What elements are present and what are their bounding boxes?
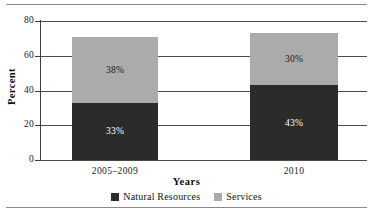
x-axis-title: Years — [0, 176, 373, 187]
y-axis-tick-label: 20 — [4, 120, 34, 130]
bar-2: 30%43% — [250, 33, 338, 160]
legend-label: Services — [226, 191, 261, 202]
bar-value-label: 30% — [285, 54, 303, 64]
y-axis-tick-label: 80 — [4, 16, 34, 26]
legend-swatch-icon — [111, 193, 119, 201]
chart-legend: Natural ResourcesServices — [0, 191, 373, 202]
legend-item: Natural Resources — [111, 191, 200, 202]
x-axis-category-label: 2010 — [230, 166, 358, 176]
bar-segment-services: 38% — [72, 37, 158, 103]
bar-segment-natural-resources: 43% — [250, 85, 338, 160]
bar-value-label: 33% — [106, 126, 124, 136]
bar-value-label: 38% — [106, 65, 124, 75]
bar-segment-natural-resources: 33% — [72, 103, 158, 160]
y-axis-line — [40, 20, 41, 161]
stacked-bar-chart: 020406080 38%33%30%43% 2005–20092010 Per… — [0, 0, 373, 213]
y-axis-title: Percent — [6, 52, 17, 122]
legend-item: Services — [214, 191, 261, 202]
y-axis-tick-label: 0 — [4, 155, 34, 165]
gridline — [41, 21, 367, 22]
bottom-divider-rule — [6, 207, 367, 208]
x-axis-category-label: 2005–2009 — [52, 166, 178, 176]
bar-1: 38%33% — [72, 37, 158, 160]
legend-label: Natural Resources — [123, 191, 200, 202]
bar-segment-services: 30% — [250, 33, 338, 85]
legend-swatch-icon — [214, 193, 222, 201]
gridline — [41, 160, 367, 161]
top-divider-rule — [6, 4, 367, 5]
bar-value-label: 43% — [285, 118, 303, 128]
